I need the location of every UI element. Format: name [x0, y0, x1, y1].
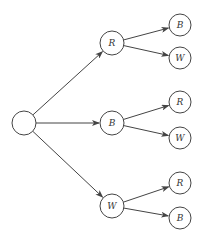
node-label: W	[107, 201, 117, 211]
tree-node-b1r: R	[169, 91, 191, 113]
tree-node-r1: R	[100, 31, 124, 55]
node-label: R	[108, 38, 116, 48]
node-label: B	[176, 20, 184, 30]
tree-node-b1w: W	[169, 127, 191, 149]
node-circle	[12, 111, 36, 135]
edge-w1-w1r	[123, 187, 168, 202]
tree-node-r1w: W	[169, 47, 191, 69]
edge-r1-r1b	[124, 28, 169, 40]
tree-node-root	[12, 111, 36, 135]
node-label: R	[176, 178, 184, 188]
edge-root-r1	[33, 52, 103, 115]
edge-r1-r1w	[124, 46, 169, 56]
tree-node-r1b: B	[169, 14, 191, 36]
tree-node-w1: W	[100, 194, 124, 218]
edge-w1-w1b	[124, 208, 168, 216]
node-label: W	[175, 53, 185, 63]
node-label: B	[176, 213, 184, 223]
node-label: B	[108, 118, 116, 128]
edge-b1-b1w	[124, 126, 169, 136]
tree-node-w1b: B	[169, 207, 191, 229]
edge-b1-b1r	[123, 106, 168, 120]
node-label: W	[175, 133, 185, 143]
edge-root-w1	[33, 131, 103, 197]
tree-node-w1r: R	[169, 172, 191, 194]
node-label: R	[176, 97, 184, 107]
tree-node-b1: B	[100, 111, 124, 135]
tree-diagram: RBWBWRWRB	[0, 0, 203, 247]
